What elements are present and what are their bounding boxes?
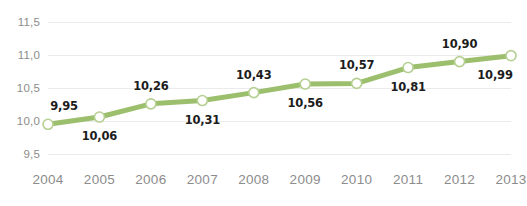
x-axis-tick-label: 2005 bbox=[84, 172, 115, 187]
data-point-value-label: 10,31 bbox=[185, 113, 220, 127]
data-point-marker bbox=[403, 63, 413, 73]
data-point-marker bbox=[455, 57, 465, 67]
data-point-marker bbox=[146, 99, 156, 109]
data-point-value-label: 10,26 bbox=[133, 79, 168, 93]
data-point-value-label: 10,90 bbox=[442, 37, 477, 51]
x-axis-tick-label: 2006 bbox=[135, 172, 166, 187]
x-axis-tick-label: 2010 bbox=[341, 172, 372, 187]
gridline bbox=[48, 154, 511, 155]
x-axis-tick-label: 2011 bbox=[393, 172, 423, 187]
data-point-value-label: 9,95 bbox=[50, 99, 78, 113]
data-point-value-label: 10,57 bbox=[339, 58, 374, 72]
x-axis-tick-label: 2008 bbox=[238, 172, 269, 187]
data-point-marker bbox=[197, 96, 207, 106]
data-point-marker bbox=[249, 88, 259, 98]
x-axis-tick-label: 2013 bbox=[495, 172, 526, 187]
x-axis-tick-label: 2009 bbox=[290, 172, 321, 187]
y-axis-tick-label: 9,5 bbox=[23, 148, 40, 160]
data-point-value-label: 10,99 bbox=[477, 68, 512, 82]
x-axis-tick-label: 2012 bbox=[444, 172, 475, 187]
x-axis-tick-label: 2007 bbox=[187, 172, 218, 187]
y-axis-tick-label: 11,5 bbox=[18, 16, 40, 28]
data-point-marker bbox=[300, 79, 310, 89]
plot-area: 9,510,010,511,011,5 9,9510,0610,2610,311… bbox=[48, 22, 511, 154]
y-axis-tick-label: 11,0 bbox=[18, 49, 40, 61]
data-point-value-label: 10,56 bbox=[288, 96, 323, 110]
y-axis-tick-label: 10,5 bbox=[17, 82, 40, 94]
y-axis-tick-label: 10,0 bbox=[17, 115, 40, 127]
data-point-marker bbox=[43, 119, 53, 129]
x-axis: 2004200520062007200820092010201120122013 bbox=[48, 172, 511, 196]
data-point-marker bbox=[94, 112, 104, 122]
data-point-marker bbox=[352, 78, 362, 88]
data-point-value-label: 10,81 bbox=[390, 80, 425, 94]
x-axis-tick-label: 2004 bbox=[32, 172, 63, 187]
series-polyline bbox=[48, 56, 511, 125]
data-point-marker bbox=[506, 51, 516, 61]
data-point-value-label: 10,06 bbox=[82, 129, 117, 143]
data-point-value-label: 10,43 bbox=[236, 68, 271, 82]
